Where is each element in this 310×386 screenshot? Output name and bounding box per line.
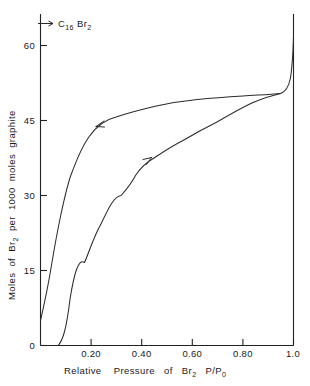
x-tick-label-060: 0.60 xyxy=(182,348,202,359)
x-axis-title-sub2: 0 xyxy=(222,371,226,378)
x-axis-title-post: P/P xyxy=(196,365,222,376)
y-axis-title-post: per 1000 moles graphite xyxy=(6,110,17,237)
x-axis-title: Relative Pressure of Br2 P/P0 xyxy=(64,365,226,378)
desorption-curve xyxy=(41,94,281,321)
adsorption-direction-arrow-icon xyxy=(143,158,152,165)
y-axis-title: Moles of Br2 per 1000 moles graphite xyxy=(6,110,19,300)
composition-br: Br xyxy=(77,18,87,29)
x-tick-label-040: 0.40 xyxy=(132,348,152,359)
composition-br-sub: 2 xyxy=(87,24,91,31)
composition-c: C xyxy=(58,18,65,29)
composition-label: C16 Br2 xyxy=(58,18,92,31)
y-tick-label-30: 30 xyxy=(24,190,35,201)
x-axis-title-pre: Relative Pressure of Br xyxy=(64,365,192,376)
y-tick-label-0: 0 xyxy=(29,340,35,351)
chart-figure: 60 45 30 15 0 0.20 0.40 0.60 0.80 1.0 xyxy=(0,0,310,386)
merged-tail-curve xyxy=(281,37,294,94)
desorption-direction-arrow-icon xyxy=(96,121,105,127)
adsorption-curve xyxy=(58,94,280,346)
x-tick-label-080: 0.80 xyxy=(233,348,253,359)
y-tick-label-15: 15 xyxy=(24,265,35,276)
x-tick-label-100: 1.0 xyxy=(286,348,300,359)
y-tick-label-45: 45 xyxy=(24,115,35,126)
y-axis-title-pre: Moles of Br xyxy=(6,241,17,300)
isotherm-plot: 60 45 30 15 0 0.20 0.40 0.60 0.80 1.0 xyxy=(0,0,310,386)
x-tick-label-020: 0.20 xyxy=(81,348,101,359)
y-tick-label-60: 60 xyxy=(24,40,35,51)
composition-c-sub: 16 xyxy=(65,24,74,31)
